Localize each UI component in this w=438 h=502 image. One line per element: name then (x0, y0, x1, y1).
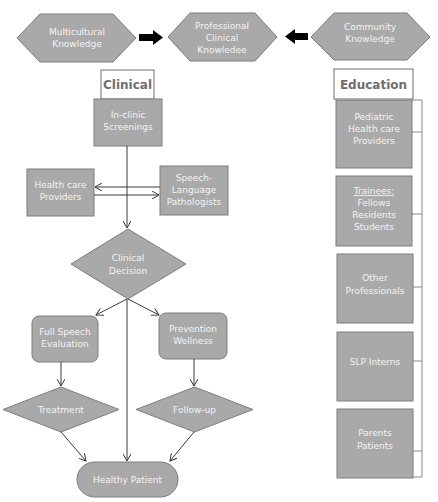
node-label: Prevention (169, 324, 217, 334)
health-care-providers-node: Health care Providers (27, 169, 94, 216)
node-label: Providers (40, 192, 82, 202)
node-label: Providers (353, 136, 395, 146)
node-label: SLP Interns (350, 357, 401, 367)
node-title: Trainees: (353, 186, 394, 196)
node-label: Knowledee (197, 45, 247, 55)
node-label: Health care (348, 124, 400, 134)
clinical-decision-node: Clinical Decision (71, 229, 186, 299)
node-label: Healthy Patient (93, 475, 163, 485)
node-label: Other (362, 273, 388, 283)
professional-clinical-knowledge-node: Professional Clinical Knowledee (168, 13, 277, 61)
node-label: Wellness (173, 336, 213, 346)
node-label: Fellows (358, 198, 391, 208)
svg-text:Education: Education (340, 78, 407, 92)
node-label: Professionals (346, 286, 405, 296)
node-label: Community (344, 22, 397, 32)
node-label: In-clinic (111, 110, 146, 120)
node-label: Knowledge (52, 39, 102, 49)
speech-language-pathologists-node: Speech- Language Pathologists (160, 166, 228, 215)
education-header: Education (334, 69, 413, 99)
node-label: Health care (35, 180, 87, 190)
full-speech-evaluation-node: Full Speech Evaluation (32, 316, 98, 362)
node-label: Language (172, 185, 217, 195)
clinical-header: Clinical (101, 70, 154, 99)
node-label: Students (354, 222, 394, 232)
node-label: Professional (195, 21, 249, 31)
arrow-treatment-to-outcome (61, 432, 86, 461)
flow-diagram: Multicultural Knowledge Professional Cli… (0, 0, 438, 502)
node-label: Follow-up (173, 405, 216, 415)
education-item-trainees: Trainees: Fellows Residents Students (336, 176, 412, 246)
node-label: Multicultural (49, 27, 105, 37)
education-item-other-professionals: Other Professionals (337, 254, 413, 323)
left-arrow-icon (285, 29, 308, 44)
node-label: Speech- (176, 173, 212, 183)
follow-up-node: Follow-up (136, 387, 253, 432)
education-item-parents-patients: Parents Patients (337, 409, 413, 478)
svg-text:Clinical: Clinical (103, 78, 152, 92)
node-label: Full Speech (39, 327, 90, 337)
node-label: Patients (357, 441, 393, 451)
education-item-slp-interns: SLP Interns (337, 332, 413, 401)
arrow-decision-to-prevention (128, 299, 159, 315)
treatment-node: Treatment (3, 387, 119, 432)
node-label: Residents (352, 210, 396, 220)
education-item-pediatric-providers: Pediatric Health care Providers (336, 100, 412, 168)
node-label: Pediatric (354, 112, 393, 122)
in-clinic-screenings-node: In-clinic Screenings (94, 99, 162, 146)
node-label: Parents (358, 428, 392, 438)
node-label: Pathologists (167, 197, 222, 207)
multicultural-knowledge-node: Multicultural Knowledge (17, 14, 136, 62)
right-arrow-icon (139, 30, 163, 45)
arrow-decision-to-evaluation (96, 299, 127, 315)
arrow-followup-to-outcome (170, 432, 194, 461)
node-label: Decision (109, 266, 147, 276)
node-label: Evaluation (41, 339, 89, 349)
node-label: Screenings (103, 122, 153, 132)
node-label: Clinical (112, 253, 144, 263)
node-label: Treatment (37, 405, 84, 415)
node-label: Knowledge (345, 34, 395, 44)
node-label: Clinical (206, 33, 238, 43)
healthy-patient-node: Healthy Patient (77, 462, 178, 497)
prevention-wellness-node: Prevention Wellness (159, 313, 227, 359)
community-knowledge-node: Community Knowledge (311, 13, 430, 60)
